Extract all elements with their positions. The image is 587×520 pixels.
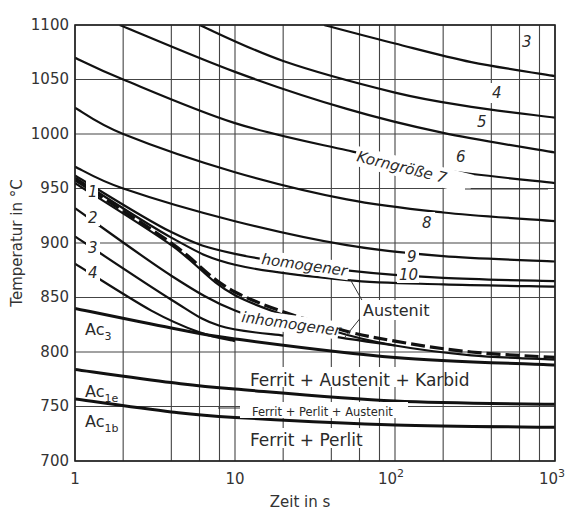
y-tick: 900 (40, 234, 69, 252)
curve-label-3: 3 (88, 239, 98, 257)
curves (75, 25, 555, 427)
ac-labels: Ac3 Ac1e Ac1b (85, 320, 118, 435)
x-tick: 10 (225, 470, 244, 488)
curve-korngr-e-8 (75, 167, 555, 262)
grain-label-8: 8 (422, 214, 432, 232)
x-axis-label: Zeit in s (270, 493, 331, 511)
grain-label-6: 6 (456, 148, 466, 166)
grain-label-4: 4 (492, 84, 502, 102)
region-labels: Ferrit + Austenit + Karbid Ferrit + Perl… (218, 367, 470, 450)
ac1b-label: Ac1b (85, 412, 118, 435)
x-tick: 102 (378, 467, 404, 488)
y-tick: 1100 (31, 16, 69, 34)
curve-number-labels: 1 2 3 4 (86, 181, 100, 282)
y-tick: 750 (40, 397, 69, 415)
region-ferrit-perlit: Ferrit + Perlit (250, 430, 363, 450)
x-axis-ticks: 1 10 102 103 (70, 467, 565, 488)
grain-label-10: 10 (399, 266, 418, 284)
region-ferrit-austenit-karbid: Ferrit + Austenit + Karbid (250, 370, 470, 390)
grain-label-3: 3 (522, 33, 532, 51)
y-tick: 1000 (31, 125, 69, 143)
y-axis-ticks: 1100 1050 1000 950 900 850 800 750 700 (31, 16, 69, 470)
y-tick: 950 (40, 179, 69, 197)
curve-label-2: 2 (88, 209, 98, 227)
ac3-label: Ac3 (85, 320, 111, 343)
y-tick: 1050 (31, 70, 69, 88)
y-tick: 850 (40, 288, 69, 306)
chart: 1100 1050 1000 950 900 850 800 750 700 T… (0, 0, 587, 520)
curve-korngr-e-5 (120, 25, 555, 153)
austenit-labels: homogener inhomogener Austenit (238, 250, 432, 340)
y-tick: 700 (40, 452, 69, 470)
curve-label-4: 4 (88, 264, 98, 282)
curve-korngr-e-3 (324, 25, 555, 76)
austenit-label: Austenit (363, 301, 429, 320)
x-tick: 1 (70, 470, 80, 488)
y-axis-label: Temperatur in °C (8, 179, 26, 307)
grain-label-7: Korngröße 7 (355, 147, 449, 187)
grain-label-5: 5 (477, 113, 487, 131)
y-tick: 800 (40, 343, 69, 361)
grain-label-9: 9 (407, 248, 417, 266)
curve-label-1: 1 (88, 183, 98, 201)
grain-size-labels: 3 4 5 6 Korngröße 7 8 9 10 (353, 30, 548, 284)
x-tick: 103 (539, 467, 565, 488)
region-ferrit-perlit-austenit: Ferrit + Perlit + Austenit (252, 405, 393, 419)
